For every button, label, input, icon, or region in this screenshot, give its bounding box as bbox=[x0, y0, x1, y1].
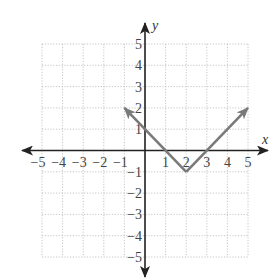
x-axis-label: x bbox=[261, 132, 269, 147]
y-tick-label: 4 bbox=[135, 58, 142, 73]
y-tick-label: −4 bbox=[127, 229, 142, 244]
x-tick-label: −4 bbox=[51, 155, 66, 170]
y-tick-label: −5 bbox=[127, 250, 142, 265]
x-tick-label: 1 bbox=[162, 155, 169, 170]
x-tick-label: −2 bbox=[92, 155, 107, 170]
y-tick-label: 5 bbox=[135, 37, 142, 52]
graph-right-branch bbox=[186, 108, 248, 172]
y-axis-label: y bbox=[150, 18, 159, 33]
x-tick-label: 5 bbox=[245, 155, 252, 170]
y-tick-label: 2 bbox=[135, 101, 142, 116]
axes bbox=[22, 23, 268, 277]
y-tick-label: −2 bbox=[127, 186, 142, 201]
x-tick-label: −3 bbox=[72, 155, 87, 170]
x-tick-label: 2 bbox=[183, 155, 190, 170]
y-tick-label: −1 bbox=[127, 165, 142, 180]
y-tick-label: 3 bbox=[135, 80, 142, 95]
coordinate-plane: −5−4−3−2−112345 54321−1−2−3−4−5 x y bbox=[0, 0, 277, 280]
x-tick-label: 4 bbox=[224, 155, 231, 170]
graph-left-branch bbox=[124, 108, 186, 172]
x-tick-label: 3 bbox=[203, 155, 210, 170]
x-tick-label: −1 bbox=[113, 155, 128, 170]
x-tick-label: −5 bbox=[31, 155, 46, 170]
y-tick-label: −3 bbox=[127, 207, 142, 222]
